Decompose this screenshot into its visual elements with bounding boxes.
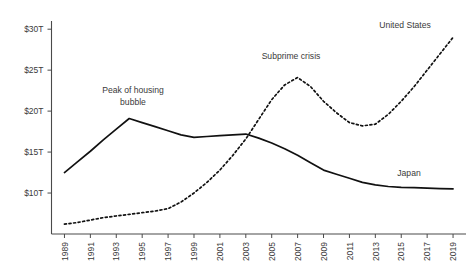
y-tick-label: $25T xyxy=(24,65,43,75)
annotation-subprime-crisis: Subprime crisis xyxy=(262,51,321,61)
y-axis: $10T$15T$20T$25T$30T xyxy=(24,21,51,234)
x-tick-label: 2009 xyxy=(319,242,329,261)
y-tick-label: $10T xyxy=(24,188,43,198)
series-label-united-states: United States xyxy=(379,20,431,30)
x-tick-label: 1997 xyxy=(163,242,173,261)
y-axis-ticks xyxy=(48,29,52,193)
x-axis-ticks xyxy=(64,234,453,238)
x-tick-label: 1995 xyxy=(137,242,147,261)
chart-container: $10T$15T$20T$25T$30T 1989199119931995199… xyxy=(0,0,473,274)
x-tick-label: 2001 xyxy=(215,242,225,261)
x-tick-label: 2007 xyxy=(293,242,303,261)
y-axis-tick-labels: $10T$15T$20T$25T$30T xyxy=(24,24,43,198)
annotation-housing-bubble-line2: bubble xyxy=(120,97,146,107)
series-line-japan xyxy=(64,118,453,188)
series-lines xyxy=(64,37,453,224)
x-tick-label: 2003 xyxy=(241,242,251,261)
x-tick-label: 2011 xyxy=(345,242,355,261)
x-tick-label: 2017 xyxy=(422,242,432,261)
x-tick-label: 1989 xyxy=(60,242,70,261)
x-axis-tick-labels: 1989199119931995199719992001200320052007… xyxy=(60,242,459,261)
x-tick-label: 2015 xyxy=(396,242,406,261)
line-chart: $10T$15T$20T$25T$30T 1989199119931995199… xyxy=(0,0,473,274)
x-tick-label: 1993 xyxy=(111,242,121,261)
series-line-united-states xyxy=(64,37,453,224)
y-tick-label: $15T xyxy=(24,147,43,157)
annotation-housing-bubble-line1: Peak of housing xyxy=(102,85,164,95)
chart-annotations: Peak of housing bubble Subprime crisis U… xyxy=(102,20,431,178)
x-tick-label: 2005 xyxy=(267,242,277,261)
x-tick-label: 2019 xyxy=(448,242,458,261)
x-tick-label: 1991 xyxy=(86,242,96,261)
x-axis: 1989199119931995199719992001200320052007… xyxy=(52,234,467,261)
y-tick-label: $30T xyxy=(24,24,43,34)
x-tick-label: 2013 xyxy=(371,242,381,261)
x-tick-label: 1999 xyxy=(189,242,199,261)
y-tick-label: $20T xyxy=(24,106,43,116)
series-label-japan: Japan xyxy=(397,168,421,178)
